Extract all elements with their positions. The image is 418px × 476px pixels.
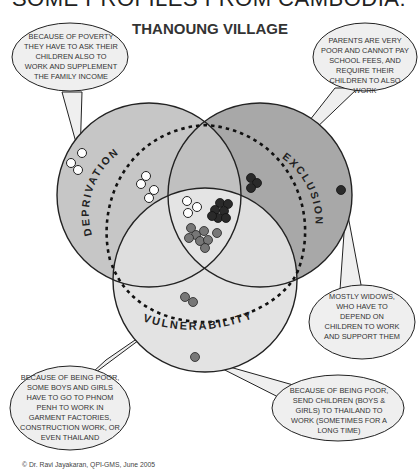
thailand-callout: BECAUSE OF BEING POOR, SEND CHILDREN (BO… <box>284 386 394 436</box>
exclusion-callout: PARENTS ARE VERY POOR AND CANNOT PAY SCH… <box>318 36 412 96</box>
widows-callout: MOSTLY WIDOWS, WHO HAVE TO DEPEND ON CHI… <box>323 292 401 342</box>
deprivation-callout: BECAUSE OF POVERTY THEY HAVE TO ASK THEI… <box>24 32 118 82</box>
footer-credit: © Dr. Ravi Jayakaran, QPI-GMS, June 2005 <box>22 461 155 468</box>
phnom-penh-callout: BECAUSE OF BEING POOR, SOME BOYS AND GIR… <box>20 373 120 443</box>
